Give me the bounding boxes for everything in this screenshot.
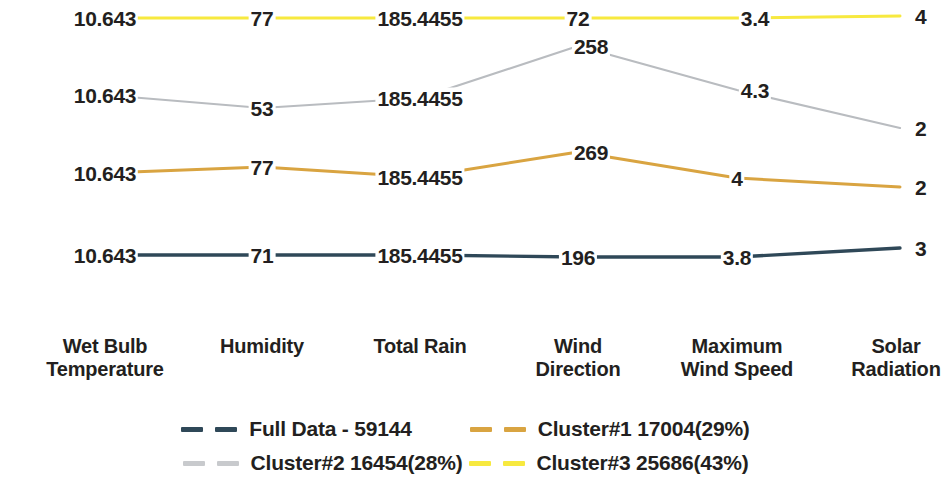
data-label-cluster1-wind-direction: 269	[572, 142, 610, 163]
data-label-cluster3-humidity: 77	[249, 8, 276, 29]
axis-label-wind-direction: Wind Direction	[536, 335, 621, 381]
legend-item-cluster2[interactable]: Cluster#2 16454(28%)	[183, 451, 463, 475]
series-line-cluster3	[105, 16, 900, 18]
series-line-cluster1	[105, 152, 900, 187]
axis-label-maximum-wind-speed: Maximum Wind Speed	[681, 335, 793, 381]
axis-label-humidity: Humidity	[220, 335, 304, 358]
legend-swatch-full-data	[181, 419, 243, 439]
axis-label-solar-radiation-line2: Radiation	[851, 358, 940, 380]
legend-swatch-cluster1	[470, 419, 532, 439]
legend-item-full-data[interactable]: Full Data - 59144	[181, 417, 411, 441]
data-label-cluster3-wind-direction: 72	[565, 8, 592, 29]
axis-label-wind-direction-line1: Wind	[554, 335, 602, 357]
series-line-full-data	[105, 248, 900, 257]
legend-item-cluster3[interactable]: Cluster#3 25686(43%)	[469, 451, 749, 475]
data-label-cluster2-total-rain: 185.4455	[375, 88, 464, 109]
data-label-full-data-maximum-wind-speed: 3.8	[721, 247, 753, 268]
axis-label-maximum-wind-speed-line2: Wind Speed	[681, 358, 793, 380]
axis-label-solar-radiation-line1: Solar	[871, 335, 920, 357]
data-label-cluster2-humidity: 53	[249, 98, 276, 119]
data-label-cluster2-wind-direction: 258	[572, 36, 610, 57]
legend-label-cluster2: Cluster#2 16454(28%)	[251, 451, 463, 475]
axis-label-wet-bulb-temperature-line2: Temperature	[46, 358, 163, 380]
data-label-cluster2-solar-radiation: 2	[915, 118, 928, 139]
axis-label-wet-bulb-temperature-line1: Wet Bulb	[63, 335, 148, 357]
data-label-cluster2-maximum-wind-speed: 4.3	[739, 80, 771, 101]
legend-row-1: Full Data - 59144 Cluster#1 17004(29%)	[0, 412, 931, 446]
data-label-cluster1-maximum-wind-speed: 4	[729, 168, 744, 189]
series-line-cluster2	[105, 46, 900, 128]
data-label-cluster3-maximum-wind-speed: 3.4	[739, 8, 771, 29]
data-label-cluster1-wet-bulb-temperature: 10.643	[72, 163, 138, 184]
data-label-cluster3-total-rain: 185.4455	[375, 8, 464, 29]
axis-label-total-rain-line1: Total Rain	[373, 335, 466, 357]
axis-label-maximum-wind-speed-line1: Maximum	[692, 335, 783, 357]
axis-label-solar-radiation: Solar Radiation	[851, 335, 940, 381]
plot-lines-svg	[0, 0, 931, 300]
data-label-full-data-wind-direction: 196	[559, 247, 597, 268]
data-label-cluster1-solar-radiation: 2	[915, 177, 928, 198]
legend-item-cluster1[interactable]: Cluster#1 17004(29%)	[470, 417, 750, 441]
data-label-cluster3-wet-bulb-temperature: 10.643	[72, 8, 138, 29]
data-label-full-data-humidity: 71	[249, 245, 276, 266]
plot-area: 10.643 77 185.4455 72 3.4 4 10.643 53 18…	[0, 0, 931, 300]
axis-label-row: Wet Bulb Temperature Humidity Total Rain…	[0, 335, 931, 397]
data-label-full-data-wet-bulb-temperature: 10.643	[72, 245, 138, 266]
axis-label-humidity-line1: Humidity	[220, 335, 304, 357]
axis-label-total-rain: Total Rain	[373, 335, 466, 358]
data-label-cluster2-wet-bulb-temperature: 10.643	[72, 85, 138, 106]
data-label-cluster1-humidity: 77	[249, 157, 276, 178]
legend-label-cluster3: Cluster#3 25686(43%)	[537, 451, 749, 475]
legend-swatch-cluster3	[469, 453, 531, 473]
data-label-full-data-solar-radiation: 3	[915, 238, 928, 259]
axis-label-wind-direction-line2: Direction	[536, 358, 621, 380]
data-label-full-data-total-rain: 185.4455	[375, 245, 464, 266]
axis-label-wet-bulb-temperature: Wet Bulb Temperature	[46, 335, 163, 381]
chart-legend: Full Data - 59144 Cluster#1 17004(29%) C…	[0, 412, 931, 484]
legend-row-2: Cluster#2 16454(28%) Cluster#3 25686(43%…	[0, 446, 931, 480]
legend-swatch-cluster2	[183, 453, 245, 473]
data-label-cluster3-solar-radiation: 4	[915, 6, 928, 27]
data-label-cluster1-total-rain: 185.4455	[375, 167, 464, 188]
legend-label-cluster1: Cluster#1 17004(29%)	[538, 417, 750, 441]
legend-label-full-data: Full Data - 59144	[249, 417, 411, 441]
